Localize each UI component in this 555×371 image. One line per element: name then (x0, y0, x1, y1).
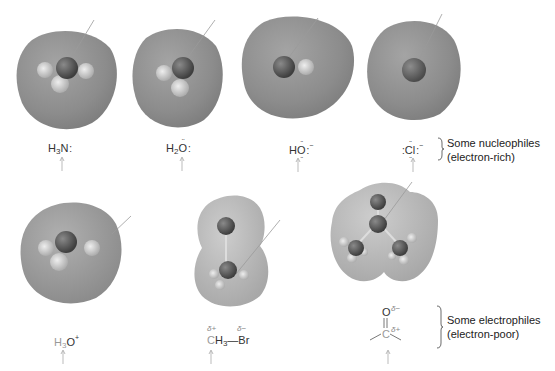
lone-pair-atom: ··O (178, 142, 187, 154)
hydroxide-potential-map (236, 12, 358, 124)
ammonia-potential-map (12, 18, 122, 133)
lone-pair: : (188, 143, 191, 154)
hydronium-formula: H3O+ (54, 334, 79, 350)
formula-atom: O (178, 142, 187, 154)
partial-positive: δ+ (391, 325, 400, 334)
charge: − (309, 142, 313, 149)
chloride-formula: :··Cl··:− (401, 142, 423, 156)
formula-atom: N (60, 142, 68, 154)
formula-h: H (166, 142, 174, 154)
up-arrow-icon (59, 350, 67, 364)
formula-h: H (48, 142, 56, 154)
label-line-1: Some nucleophiles (447, 136, 540, 150)
electrophiles-label: Some electrophiles (electron-poor) (447, 313, 541, 341)
formula-h: H (215, 334, 223, 346)
hydronium-potential-map (16, 196, 136, 308)
nucleophiles-label: Some nucleophiles (electron-rich) (447, 136, 540, 164)
up-arrow-icon (58, 157, 66, 171)
partial-negative: δ− (237, 324, 246, 333)
formula-carbon: C (382, 328, 390, 340)
chloride-potential-map (362, 14, 464, 124)
up-arrow-icon (207, 350, 215, 364)
up-arrow-icon (178, 157, 186, 171)
label-line-2: (electron-rich) (447, 150, 540, 164)
electrophiles-brace (436, 305, 444, 353)
up-arrow-icon (409, 158, 417, 172)
formula-bromine: Br (238, 334, 249, 346)
bromomethane-formula: δ+ δ− CH3—Br (207, 334, 249, 348)
up-arrow-icon (384, 350, 392, 364)
formula-h: H (54, 336, 62, 348)
ammonia-formula: H3N: (48, 142, 72, 156)
label-line-1: Some electrophiles (447, 313, 541, 327)
hydroxide-formula: H··O··:− (289, 142, 313, 156)
charge: + (75, 334, 79, 341)
formula-oxygen: O (382, 306, 391, 318)
up-arrow-icon (294, 158, 302, 172)
water-potential-map (128, 20, 228, 132)
formula-h: H (289, 144, 297, 156)
water-formula: H2··O: (166, 142, 191, 156)
nucleophiles-brace (437, 137, 445, 165)
formula-carbon: C (207, 334, 215, 346)
partial-positive: δ+ (207, 324, 216, 333)
bond: — (227, 334, 238, 346)
partial-negative: δ− (391, 304, 400, 313)
formula-atom: O (66, 336, 75, 348)
lone-pair-atom: ··O·· (297, 144, 306, 156)
lone-pair-atom: ··Cl·· (405, 144, 415, 156)
carbonyl-formula: O δ− C δ+ (370, 306, 430, 356)
carbonyl-potential-map (326, 180, 446, 290)
bromomethane-potential-map (186, 190, 286, 312)
lone-pair: : (69, 143, 72, 154)
label-line-2: (electron-poor) (447, 327, 541, 341)
charge: − (419, 142, 423, 149)
